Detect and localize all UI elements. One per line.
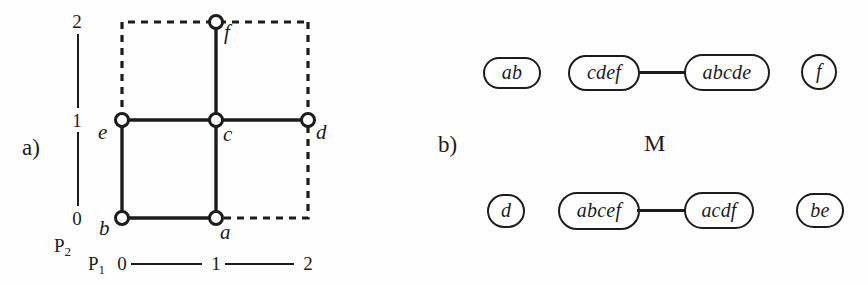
node-acdf[interactable]: acdf bbox=[684, 192, 754, 229]
y-axis-name-text: P bbox=[54, 235, 65, 256]
x-axis-name-sub: 1 bbox=[99, 262, 106, 277]
y-axis-name-sub: 2 bbox=[65, 244, 72, 259]
node-be-label: be bbox=[810, 200, 829, 222]
x-tick-2: 2 bbox=[296, 254, 320, 273]
vertex-label-a: a bbox=[220, 222, 231, 243]
vertex-label-b: b bbox=[99, 218, 110, 239]
vertex-label-c: c bbox=[223, 124, 232, 145]
node-ab[interactable]: ab bbox=[483, 57, 541, 89]
node-d[interactable]: d bbox=[487, 194, 525, 228]
y-tick-1: 1 bbox=[62, 111, 92, 130]
y-axis-segment-upper bbox=[77, 34, 79, 108]
vertex-f[interactable] bbox=[210, 16, 223, 29]
node-d-label: d bbox=[501, 200, 511, 222]
y-axis-segment-lower bbox=[77, 132, 79, 206]
vertex-label-d: d bbox=[316, 122, 327, 143]
y-tick-0: 0 bbox=[62, 209, 92, 228]
y-axis-name: P2 bbox=[54, 236, 71, 258]
node-abcde-label: abcde bbox=[703, 62, 752, 84]
vertex-e[interactable] bbox=[116, 114, 129, 127]
vertex-label-e: e bbox=[98, 122, 107, 143]
x-axis-name: P1 bbox=[88, 254, 105, 276]
node-f[interactable]: f bbox=[801, 54, 837, 90]
node-be[interactable]: be bbox=[796, 193, 844, 228]
node-f-label: f bbox=[816, 61, 822, 83]
x-axis-segment-left bbox=[131, 263, 202, 265]
node-ab-label: ab bbox=[502, 62, 522, 84]
edge-cdef-abcde bbox=[638, 71, 686, 74]
x-axis-name-text: P bbox=[88, 253, 99, 274]
figure-container: a) 2 1 0 P2 P1 0 1 2 bbox=[0, 0, 868, 285]
y-tick-2: 2 bbox=[62, 12, 92, 31]
node-acdf-label: acdf bbox=[701, 200, 736, 222]
node-cdef[interactable]: cdef bbox=[568, 55, 640, 91]
vertex-d[interactable] bbox=[302, 114, 315, 127]
node-abcef-label: abcef bbox=[577, 200, 621, 222]
edge-abcef-acdf bbox=[637, 209, 686, 212]
panel-a-label: a) bbox=[22, 135, 40, 161]
node-abcef[interactable]: abcef bbox=[558, 192, 640, 230]
vertex-label-f: f bbox=[224, 22, 230, 43]
vertex-b[interactable] bbox=[116, 212, 129, 225]
panel-b-label: b) bbox=[438, 132, 457, 158]
panel-a-graph bbox=[100, 0, 340, 250]
node-cdef-label: cdef bbox=[587, 62, 621, 84]
vertex-c[interactable] bbox=[210, 114, 223, 127]
panel-b-title: M bbox=[644, 131, 665, 155]
node-abcde[interactable]: abcde bbox=[684, 54, 770, 91]
x-axis-segment-right bbox=[225, 263, 294, 265]
